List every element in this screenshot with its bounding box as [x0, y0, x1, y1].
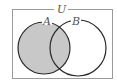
universe-label: U	[57, 3, 67, 16]
set-b-label: B	[71, 15, 80, 28]
venn-diagram: U A B	[0, 0, 117, 82]
set-a-label: A	[42, 15, 51, 28]
